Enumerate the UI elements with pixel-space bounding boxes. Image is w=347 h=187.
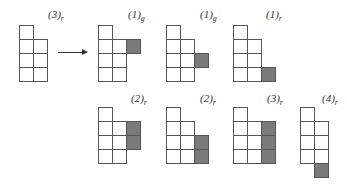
cell	[19, 67, 34, 82]
cell	[180, 53, 195, 68]
cell	[98, 107, 113, 122]
shaded-cell	[194, 149, 209, 164]
cell	[166, 53, 181, 68]
shaded-cell	[261, 135, 276, 150]
cell	[98, 149, 113, 164]
cell	[300, 121, 315, 136]
cell	[300, 135, 315, 150]
cell	[19, 53, 34, 68]
cell	[112, 149, 127, 164]
cell	[112, 121, 127, 136]
shaded-cell	[194, 135, 209, 150]
cell	[233, 25, 248, 40]
cell	[233, 135, 248, 150]
shaded-cell	[314, 163, 329, 178]
cell	[314, 135, 329, 150]
shaded-cell	[126, 121, 141, 136]
diagram-label: (4)r	[322, 92, 338, 107]
shaded-cell	[261, 121, 276, 136]
cell	[300, 107, 315, 122]
cell	[180, 135, 195, 150]
cell	[166, 67, 181, 82]
cell	[247, 67, 262, 82]
cell	[98, 135, 113, 150]
cell	[112, 39, 127, 54]
cell	[98, 53, 113, 68]
cell	[314, 149, 329, 164]
cell	[98, 25, 113, 40]
diagram-label: (1)r	[266, 8, 282, 23]
cell	[98, 39, 113, 54]
cell	[247, 121, 262, 136]
cell	[180, 39, 195, 54]
diagram-label: (2)r	[200, 92, 216, 107]
cell	[19, 39, 34, 54]
cell	[233, 121, 248, 136]
diagram-label: (2)r	[131, 92, 147, 107]
cell	[180, 67, 195, 82]
cell	[33, 39, 48, 54]
cell	[166, 135, 181, 150]
cell	[233, 53, 248, 68]
cell	[98, 121, 113, 136]
cell	[166, 149, 181, 164]
cell	[180, 149, 195, 164]
cell	[166, 121, 181, 136]
cell	[112, 135, 127, 150]
cell	[166, 107, 181, 122]
cell	[98, 67, 113, 82]
cell	[33, 67, 48, 82]
shaded-cell	[126, 39, 141, 54]
shaded-cell	[261, 149, 276, 164]
cell	[233, 149, 248, 164]
cell	[33, 53, 48, 68]
cell	[300, 149, 315, 164]
cell	[166, 39, 181, 54]
cell	[112, 53, 127, 68]
cell	[166, 25, 181, 40]
cell	[19, 25, 34, 40]
cell	[247, 149, 262, 164]
cell	[112, 67, 127, 82]
cell	[233, 39, 248, 54]
cell	[247, 53, 262, 68]
diagram-label: (1)g	[200, 8, 217, 23]
cell	[247, 39, 262, 54]
shaded-cell	[194, 53, 209, 68]
cell	[247, 135, 262, 150]
cell	[233, 107, 248, 122]
shaded-cell	[126, 135, 141, 150]
cell	[314, 121, 329, 136]
shaded-cell	[261, 67, 276, 82]
cell	[233, 67, 248, 82]
diagram-label: (3)r	[48, 8, 64, 23]
diagram-label: (3)r	[267, 92, 283, 107]
cell	[180, 121, 195, 136]
right-arrow-icon	[58, 52, 86, 53]
diagram-label: (1)g	[128, 8, 145, 23]
